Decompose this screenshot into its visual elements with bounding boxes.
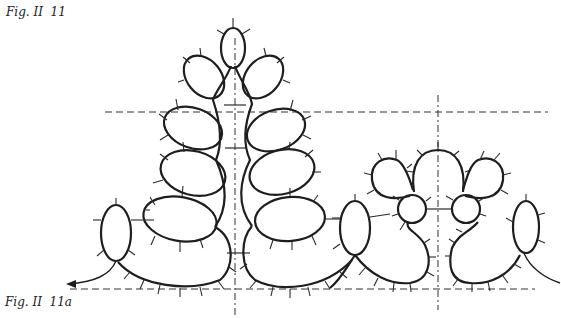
leaf-spray-motif [66, 18, 352, 298]
guide-lines [70, 38, 548, 318]
side-ring-left [101, 205, 131, 261]
side-ring-right [513, 201, 539, 253]
top-ring [221, 28, 245, 68]
edging-motif [330, 142, 560, 292]
base-chain-left [118, 227, 231, 286]
ring-left-1 [176, 48, 233, 107]
end-thread [524, 253, 560, 283]
side-ring-mid [340, 201, 370, 255]
lower-chain-left [355, 222, 429, 283]
ring-right-4 [253, 194, 327, 244]
ring-right-3 [244, 142, 319, 202]
ring-left-2 [158, 99, 228, 157]
loop-left [372, 158, 413, 198]
small-ring-left [398, 195, 426, 223]
small-ring-right [452, 195, 480, 223]
tatting-diagram [0, 0, 561, 318]
connector-left [330, 255, 355, 288]
loop-right [463, 158, 503, 198]
start-arrow-icon [66, 280, 76, 288]
base-chain-right [243, 226, 352, 287]
